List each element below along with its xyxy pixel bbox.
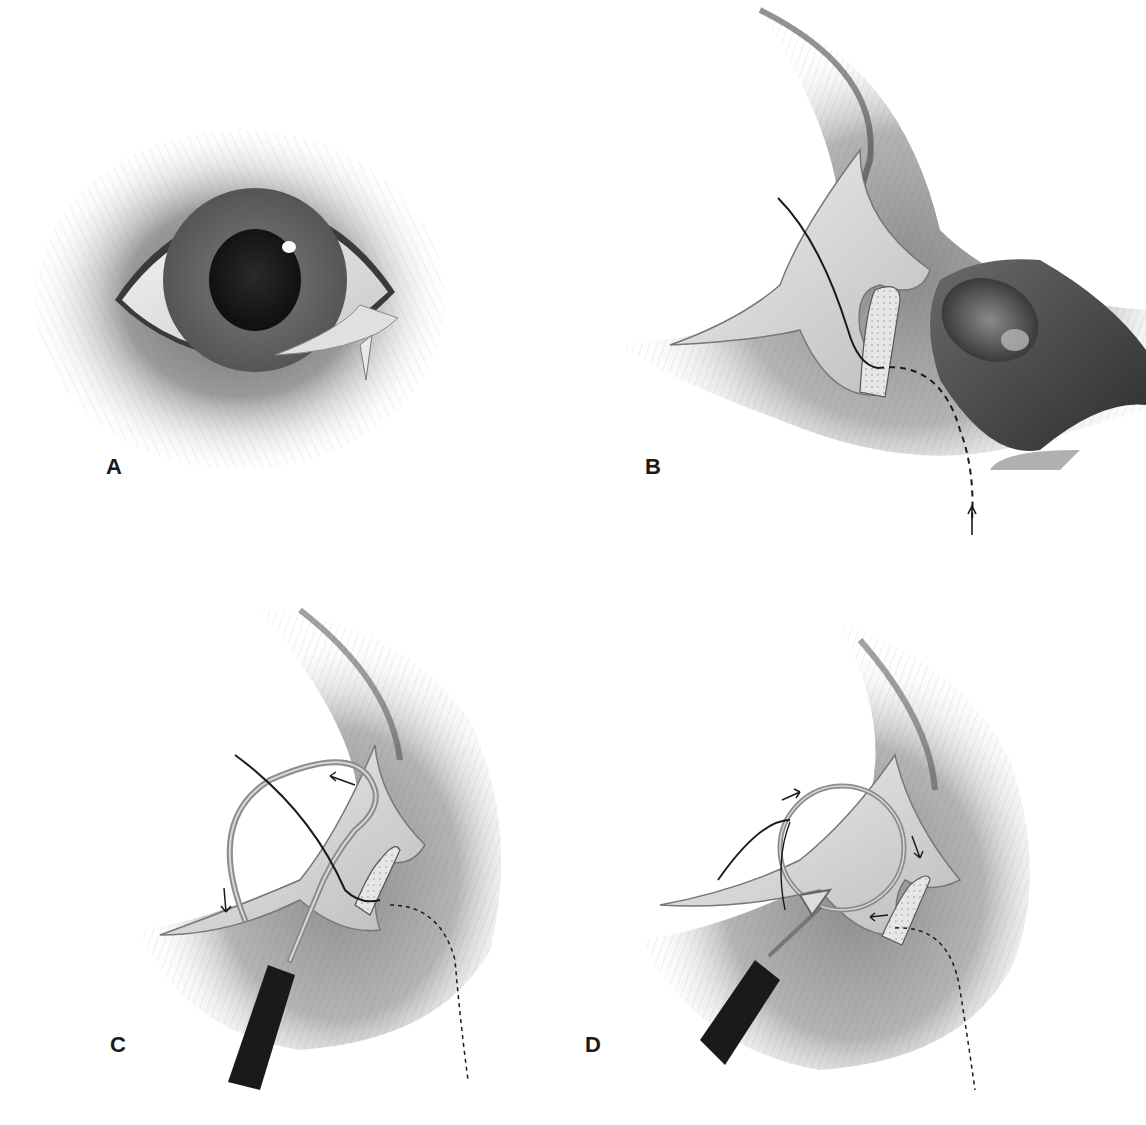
arrow-down-icon bbox=[221, 888, 231, 912]
panel-label-b: B bbox=[645, 454, 661, 480]
arrow-up-icon bbox=[968, 506, 976, 535]
panel-label-a: A bbox=[106, 454, 122, 480]
panel-label-d: D bbox=[585, 1032, 601, 1058]
panel-label-c: C bbox=[110, 1032, 126, 1058]
panel-d bbox=[640, 625, 1030, 1090]
arrow-left-icon bbox=[330, 772, 355, 785]
panel-c bbox=[140, 610, 501, 1090]
panel-a bbox=[30, 125, 450, 475]
panel-b bbox=[620, 10, 1146, 535]
corneal-highlight bbox=[282, 241, 296, 253]
figure-canvas bbox=[0, 0, 1146, 1125]
arrow-right-icon bbox=[782, 789, 800, 800]
